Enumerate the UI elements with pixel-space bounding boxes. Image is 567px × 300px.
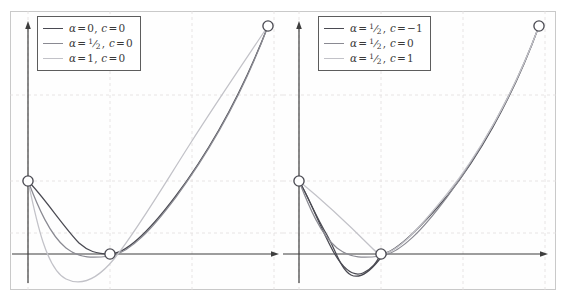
legend-swatch-curve-dark [43, 28, 63, 29]
legend-item: α=0, c=0 [43, 21, 133, 36]
marker-right-endpoint [263, 21, 273, 31]
marker-minimum-node [105, 249, 115, 259]
legend-swatch-curve-mid [324, 43, 344, 44]
legend-item: α=1, c=0 [43, 51, 133, 66]
fraction-one-half: 1/2 [87, 38, 102, 49]
legend-label: α=1/2, c=0 [350, 38, 414, 50]
legend-swatch-curve-light [324, 58, 344, 59]
legend-label: α=1/2, c=−1 [350, 23, 423, 35]
legend-left: α=0, c=0 α=1/2, c=0 α=1, c=0 [37, 16, 141, 71]
legend-right: α=1/2, c=−1 α=1/2, c=0 α=1/2, c=1 [318, 16, 431, 71]
marker-left-endpoint [294, 176, 304, 186]
fraction-one-half: 1/2 [368, 38, 383, 49]
marker-right-endpoint [534, 21, 544, 31]
legend-label: α=0, c=0 [69, 23, 125, 34]
legend-swatch-curve-light [43, 58, 63, 59]
legend-item: α=1/2, c=0 [43, 36, 133, 51]
marker-minimum-node [376, 249, 386, 259]
legend-label: α=1/2, c=1 [350, 53, 414, 65]
figure-root: α=0, c=0 α=1/2, c=0 α=1, c=0 α=1/2, c=−1 [0, 0, 567, 300]
marker-left-endpoint [23, 176, 33, 186]
fraction-one-half: 1/2 [368, 53, 383, 64]
legend-item: α=1/2, c=1 [324, 51, 423, 66]
fraction-one-half: 1/2 [368, 23, 383, 34]
legend-item: α=1/2, c=−1 [324, 21, 423, 36]
legend-label: α=1, c=0 [69, 53, 125, 64]
legend-swatch-curve-mid [43, 43, 63, 44]
curve-c-neg1-lobe [299, 181, 381, 274]
legend-label: α=1/2, c=0 [69, 38, 133, 50]
legend-swatch-curve-dark [324, 28, 344, 29]
legend-item: α=1/2, c=0 [324, 36, 423, 51]
